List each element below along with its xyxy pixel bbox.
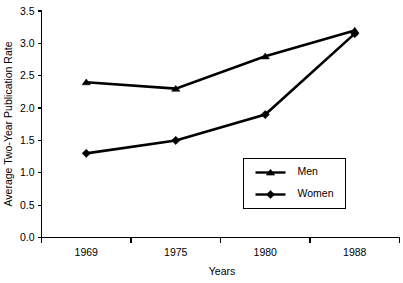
y-tick-label: 3.5: [20, 5, 35, 17]
series-women: [82, 30, 359, 158]
series-line-women: [86, 34, 355, 154]
y-tick-label: 2.5: [20, 69, 35, 81]
series-layer: [82, 27, 359, 157]
y-tick-label: 1.5: [20, 134, 35, 146]
x-axis-ticks: 1969197519801988: [42, 238, 400, 258]
chart-legend[interactable]: MenWomen: [244, 159, 346, 209]
series-men: [82, 27, 359, 91]
y-tick-label: 0.0: [20, 231, 35, 243]
chart-figure: 0.00.51.01.52.02.53.03.5 196919751980198…: [0, 0, 403, 283]
x-tick-label: 1980: [254, 246, 278, 258]
y-axis-title: Average Two-Year Publication Rate: [2, 41, 14, 206]
data-point-women-1969: [82, 149, 90, 157]
legend-label-women: Women: [298, 187, 334, 199]
data-point-women-1975: [172, 136, 180, 144]
x-axis-title: Years: [209, 265, 235, 277]
series-line-men: [86, 30, 355, 88]
y-tick-label: 1.0: [20, 166, 35, 178]
y-axis-ticks: 0.00.51.01.52.02.53.03.5: [20, 5, 42, 244]
legend-label-men: Men: [298, 165, 319, 177]
legend-box: [244, 159, 346, 209]
line-chart: 0.00.51.01.52.02.53.03.5 196919751980198…: [0, 0, 403, 283]
x-tick-label: 1969: [75, 246, 99, 258]
y-tick-label: 0.5: [20, 199, 35, 211]
x-tick-label: 1988: [343, 246, 367, 258]
y-tick-label: 2.0: [20, 102, 35, 114]
x-tick-label: 1975: [164, 246, 188, 258]
y-tick-label: 3.0: [20, 37, 35, 49]
